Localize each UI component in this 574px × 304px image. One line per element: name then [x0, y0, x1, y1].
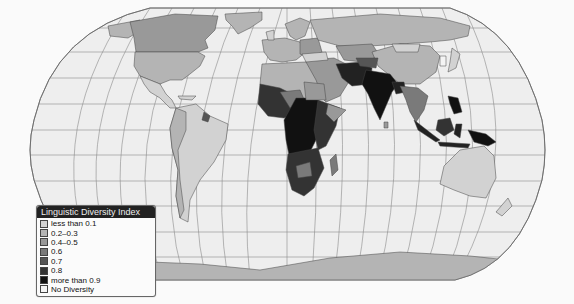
legend-label: No Diversity: [51, 285, 94, 294]
mongolia: [392, 44, 420, 52]
legend-swatch: [40, 257, 48, 265]
legend-label: 0.6: [51, 247, 62, 256]
legend-label: 0.8: [51, 266, 62, 275]
legend-label: 0.7: [51, 257, 62, 266]
legend-swatch: [40, 276, 48, 284]
legend-item: 0.8: [40, 266, 152, 275]
legend-items: less than 0.1 0.2–0.3 0.4–0.5 0.6 0.7 0.…: [37, 218, 155, 296]
legend-swatch: [40, 220, 48, 228]
legend-item: 0.7: [40, 257, 152, 266]
legend-label: more than 0.9: [51, 276, 100, 285]
legend-label: 0.2–0.3: [51, 229, 78, 238]
legend-swatch: [40, 229, 48, 237]
legend-item: 0.6: [40, 247, 152, 256]
sri-lanka: [384, 122, 388, 128]
legend-label: less than 0.1: [51, 219, 96, 228]
legend-item: less than 0.1: [40, 219, 152, 228]
legend-swatch: [40, 267, 48, 275]
turkey: [302, 52, 328, 62]
korea: [440, 56, 446, 66]
legend-title: Linguistic Diversity Index: [37, 206, 155, 218]
legend-item: No Diversity: [40, 285, 152, 294]
legend: Linguistic Diversity Index less than 0.1…: [36, 205, 156, 297]
legend-item: 0.2–0.3: [40, 228, 152, 237]
sudan: [304, 82, 326, 100]
legend-swatch: [40, 248, 48, 256]
legend-swatch: [40, 238, 48, 246]
legend-label: 0.4–0.5: [51, 238, 78, 247]
legend-item: more than 0.9: [40, 275, 152, 284]
canada: [130, 14, 218, 52]
legend-swatch: [40, 285, 48, 293]
legend-item: 0.4–0.5: [40, 238, 152, 247]
